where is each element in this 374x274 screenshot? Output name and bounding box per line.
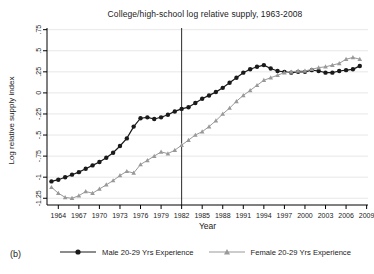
x-tick-label: 1994	[256, 212, 272, 219]
x-tick-label: 2009	[359, 212, 374, 219]
x-tick-label: 1985	[194, 212, 210, 219]
data-point-male	[179, 107, 183, 111]
x-tick-label: 1988	[215, 212, 231, 219]
data-point-male	[125, 136, 129, 140]
data-point-male	[275, 69, 279, 73]
male-series-marker-icon	[59, 247, 97, 257]
data-point-female	[125, 169, 130, 173]
data-point-male	[255, 65, 259, 69]
data-point-male	[56, 178, 60, 182]
data-point-female	[104, 182, 109, 186]
data-point-male	[118, 144, 122, 148]
y-axis-title: Log relative supply index	[7, 41, 16, 201]
y-tick-label: -1.25	[35, 190, 42, 206]
data-point-male	[111, 151, 115, 155]
data-point-male	[241, 70, 245, 74]
data-point-female	[83, 189, 88, 193]
y-tick-label: 0	[35, 91, 42, 95]
data-point-male	[49, 179, 53, 183]
x-tick-label: 1997	[277, 212, 293, 219]
data-point-male	[159, 115, 163, 119]
data-point-female	[138, 162, 143, 166]
data-point-female	[118, 173, 123, 177]
x-tick-label: 1979	[153, 212, 169, 219]
data-point-female	[145, 158, 150, 162]
x-tick-label: 2003	[318, 212, 334, 219]
x-tick-label: 1982	[174, 212, 190, 219]
chart-plot-area: .75.5.250-.25-.5-.75-1-1.251964196719701…	[0, 0, 374, 274]
figure-panel: College/high-school log relative supply,…	[0, 0, 374, 274]
y-tick-label: -.25	[35, 108, 42, 120]
data-point-male	[221, 86, 225, 90]
data-point-male	[131, 124, 135, 128]
data-point-male	[200, 97, 204, 101]
data-point-female	[159, 150, 164, 154]
data-point-male	[63, 175, 67, 179]
data-point-female	[248, 88, 253, 92]
panel-label: (b)	[10, 249, 21, 259]
x-tick-label: 1976	[133, 212, 149, 219]
data-point-female	[97, 187, 102, 191]
y-tick-label: .75	[35, 25, 42, 35]
x-tick-label: 1991	[236, 212, 252, 219]
data-point-male	[152, 117, 156, 121]
data-point-male	[269, 66, 273, 70]
legend-item-male: Male 20-29 Yrs Experience	[59, 247, 193, 257]
x-tick-label: 1964	[51, 212, 67, 219]
x-axis-title: Year	[47, 221, 368, 231]
data-point-male	[90, 163, 94, 167]
data-point-male	[316, 69, 320, 73]
data-point-female	[77, 193, 82, 197]
data-point-male	[207, 93, 211, 97]
data-point-male	[70, 172, 74, 176]
data-point-male	[337, 69, 341, 73]
data-point-male	[77, 170, 81, 174]
data-point-male	[214, 90, 218, 94]
x-tick-label: 2000	[297, 212, 313, 219]
chart-title: College/high-school log relative supply,…	[40, 9, 370, 19]
legend: Male 20-29 Yrs Experience Female 20-29 Y…	[38, 247, 372, 257]
legend-label-male: Male 20-29 Yrs Experience	[102, 248, 193, 257]
data-point-male	[138, 116, 142, 120]
legend-label-female: Female 20-29 Yrs Experience	[251, 248, 351, 257]
data-point-male	[351, 67, 355, 71]
data-point-female	[337, 61, 342, 65]
x-tick-label: 1973	[112, 212, 128, 219]
y-tick-label: -.5	[35, 131, 42, 139]
y-tick-label: .25	[35, 67, 42, 77]
data-point-male	[193, 101, 197, 105]
data-point-male	[145, 115, 149, 119]
data-point-female	[351, 55, 356, 59]
y-tick-label: .5	[35, 48, 42, 54]
x-tick-label: 1967	[71, 212, 87, 219]
x-tick-label: 2006	[338, 212, 354, 219]
data-point-male	[227, 81, 231, 85]
data-point-male	[248, 67, 252, 71]
data-point-male	[104, 156, 108, 160]
data-point-male	[173, 109, 177, 113]
data-point-male	[330, 70, 334, 74]
data-point-male	[186, 105, 190, 109]
data-point-male	[84, 167, 88, 171]
y-tick-label: -1	[35, 174, 42, 180]
x-tick-label: 1970	[92, 212, 108, 219]
data-point-male	[323, 70, 327, 74]
data-point-male	[344, 68, 348, 72]
female-series-marker-icon	[208, 247, 246, 257]
series-line-male	[52, 65, 360, 181]
data-point-male	[97, 160, 101, 164]
y-tick-label: -.75	[35, 150, 42, 162]
data-point-male	[262, 63, 266, 67]
data-point-male	[166, 113, 170, 117]
data-point-male	[234, 76, 238, 80]
data-point-male	[358, 64, 362, 68]
legend-item-female: Female 20-29 Yrs Experience	[208, 247, 351, 257]
data-point-female	[49, 185, 54, 189]
